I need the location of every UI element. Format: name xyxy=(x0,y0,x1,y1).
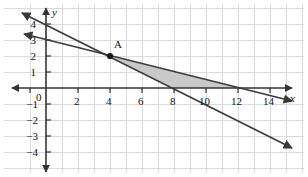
y-tick-label-3: 3 xyxy=(31,34,37,46)
x-tick-label-14: 14 xyxy=(263,95,275,107)
y-tick-label-2: 2 xyxy=(31,50,37,62)
x-tick-label-2: 2 xyxy=(74,95,80,107)
y-tick-label-neg3: −3 xyxy=(26,130,38,142)
x-tick-label-10: 10 xyxy=(199,95,211,107)
x-tick-label-6: 6 xyxy=(138,95,144,107)
y-tick-label-neg1: −1 xyxy=(26,98,38,110)
y-tick-label-neg2: −2 xyxy=(26,114,38,126)
graph-figure: A y x 0 2 4 6 8 10 12 14 4 3 2 1 −1 −2 −… xyxy=(0,0,308,177)
y-tick-label-4: 4 xyxy=(31,18,37,30)
y-tick-label-1: 1 xyxy=(31,66,37,78)
point-a-label: A xyxy=(114,38,122,50)
coordinate-plane-chart: A y x 0 2 4 6 8 10 12 14 4 3 2 1 −1 −2 −… xyxy=(0,0,308,177)
x-axis-label: x xyxy=(289,92,295,104)
point-a-marker xyxy=(107,53,113,59)
x-tick-label-8: 8 xyxy=(170,95,176,107)
y-axis-label: y xyxy=(51,6,57,18)
x-tick-label-12: 12 xyxy=(231,95,242,107)
x-tick-label-4: 4 xyxy=(106,95,112,107)
y-tick-label-neg4: −4 xyxy=(26,146,38,158)
